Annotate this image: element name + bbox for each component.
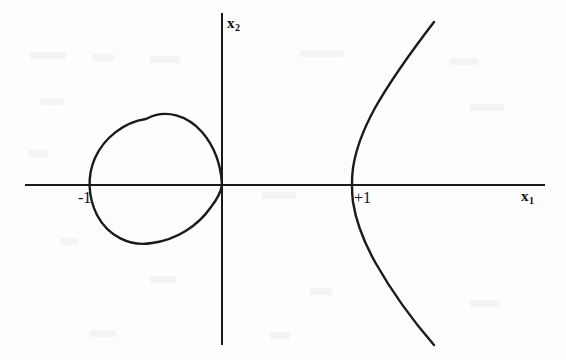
plot-svg (0, 0, 566, 360)
y-axis-label-subscript: 2 (235, 22, 240, 33)
curve-closed-oval (90, 114, 222, 244)
x-axis-label-subscript: 1 (529, 195, 534, 206)
x-axis-label: x1 (521, 189, 534, 204)
figure-canvas: x2 x1 -1 +1 (0, 0, 566, 360)
x-axis-label-base: x (521, 188, 529, 204)
curve-hyperbola-upper (352, 22, 434, 185)
y-axis-label-base: x (227, 15, 235, 31)
tick-label-plus-one: +1 (354, 190, 371, 206)
y-axis-label: x2 (227, 16, 240, 31)
curve-hyperbola-lower (352, 185, 434, 345)
tick-label-minus-one: -1 (78, 190, 91, 206)
